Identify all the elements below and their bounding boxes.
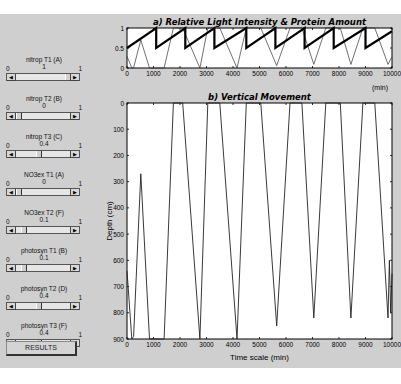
figure-window: nitrop T1 (A)011◀▶nitrop T2 (B)001◀▶nitr… <box>0 0 401 384</box>
y-tick-label: 400 <box>113 204 124 211</box>
chart-title: b) Vertical Movement <box>208 92 312 102</box>
y-tick-label: 700 <box>113 283 124 290</box>
x-tick-label: 6000 <box>279 70 294 77</box>
chart-title: a) Relative Light Intensity & Protein Am… <box>153 17 367 27</box>
x-tick-label: 8000 <box>332 341 347 348</box>
y-tick-label: 0.5 <box>115 45 124 52</box>
x-tick-label: 7000 <box>305 341 320 348</box>
x-tick-label: 9000 <box>358 70 373 77</box>
y-axis-label: Depth (cm) <box>105 201 114 241</box>
y-tick-label: 500 <box>113 231 124 238</box>
x-tick-label: 7000 <box>305 70 320 77</box>
y-tick-label: 0 <box>120 65 124 72</box>
x-tick-label: 1000 <box>146 341 161 348</box>
x-tick-label: 2000 <box>173 341 188 348</box>
x-tick-label: 8000 <box>332 70 347 77</box>
plot-area <box>127 103 392 339</box>
y-tick-label: 100 <box>113 126 124 133</box>
x-tick-label: 0 <box>125 70 129 77</box>
x-tick-label: 3000 <box>199 70 214 77</box>
y-tick-label: 1 <box>120 25 124 32</box>
x-tick-label: 9000 <box>358 341 373 348</box>
x-tick-label: 2000 <box>173 70 188 77</box>
x-tick-label: 10000 <box>383 70 401 77</box>
y-tick-label: 300 <box>113 178 124 185</box>
y-tick-label: 0 <box>120 100 124 107</box>
x-tick-label: 4000 <box>226 70 241 77</box>
x-tick-label: 5000 <box>252 70 267 77</box>
x-axis-label: Time scale (min) <box>230 353 289 362</box>
plot-area <box>127 28 392 68</box>
x-tick-label: 10000 <box>383 341 401 348</box>
x-tick-label: 0 <box>125 341 129 348</box>
x-tick-label: 6000 <box>279 341 294 348</box>
x-axis-label: (min) <box>372 84 388 92</box>
x-tick-label: 4000 <box>226 341 241 348</box>
y-tick-label: 800 <box>113 309 124 316</box>
y-tick-label: 600 <box>113 257 124 264</box>
y-tick-label: 900 <box>113 336 124 343</box>
y-tick-label: 200 <box>113 152 124 159</box>
x-tick-label: 3000 <box>199 341 214 348</box>
charts: 0100020003000400050006000700080009000100… <box>0 0 401 384</box>
x-tick-label: 5000 <box>252 341 267 348</box>
x-tick-label: 1000 <box>146 70 161 77</box>
